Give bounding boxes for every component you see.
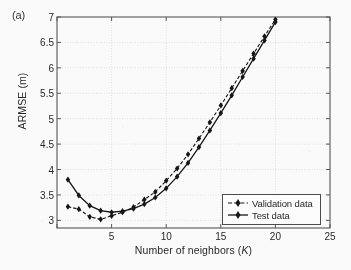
legend-label-test-data: Test data — [252, 210, 290, 221]
legend-label-validation-data: Validation data — [252, 198, 313, 209]
legend-marker-dashed-icon — [227, 197, 249, 209]
plot-area — [0, 0, 351, 270]
legend-item-validation-data: Validation data — [227, 197, 316, 209]
legend-item-test-data: Test data — [227, 209, 316, 221]
legend: Validation data Test data — [222, 194, 321, 225]
legend-marker-solid-icon — [227, 209, 249, 221]
figure-panel-a: (a) ARMSE (m) Number of neighbors (K) 33… — [0, 0, 351, 270]
data-series-layer — [66, 16, 278, 222]
